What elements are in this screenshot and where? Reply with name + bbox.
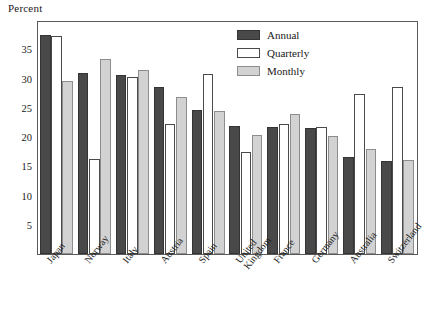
bar-spain-annual — [192, 110, 203, 254]
bar-united-kingdom-annual — [229, 126, 240, 254]
y-axis-title: Percent — [8, 2, 42, 14]
bar-italy-monthly — [138, 70, 149, 254]
legend-swatch-monthly — [237, 66, 260, 76]
bar-australia-annual — [343, 157, 354, 254]
bar-austria-quarterly — [165, 124, 176, 254]
y-axis-tick-label: 30 — [6, 73, 32, 84]
y-axis-tick-label: 15 — [6, 161, 32, 172]
bar-austria-monthly — [176, 97, 187, 254]
bars-layer — [38, 22, 417, 254]
legend-item-quarterly: Quarterly — [237, 45, 357, 61]
bar-germany-annual — [305, 128, 316, 254]
bar-germany-quarterly — [316, 127, 327, 254]
legend-swatch-quarterly — [237, 48, 260, 58]
legend-label-monthly: Monthly — [267, 65, 305, 77]
legend-label-quarterly: Quarterly — [267, 47, 309, 59]
bar-japan-quarterly — [51, 36, 62, 254]
bar-norway-annual — [78, 73, 89, 254]
bar-italy-quarterly — [127, 77, 138, 254]
bar-switzerland-annual — [381, 161, 392, 254]
bar-france-quarterly — [279, 124, 290, 254]
bar-austria-annual — [154, 87, 165, 254]
y-axis-tick-label: 25 — [6, 102, 32, 113]
bar-chart: Percent 5101520253035 JapanNorwayItalyAu… — [0, 0, 426, 325]
y-axis-tick-label: 10 — [6, 190, 32, 201]
bar-switzerland-quarterly — [392, 87, 403, 254]
y-axis-tick-label: 35 — [6, 44, 32, 55]
bar-spain-monthly — [214, 111, 225, 254]
bar-norway-monthly — [100, 59, 111, 254]
y-axis-tick-label: 5 — [6, 219, 32, 230]
bar-spain-quarterly — [203, 74, 214, 254]
legend-swatch-annual — [237, 30, 260, 40]
bar-australia-quarterly — [354, 94, 365, 254]
bar-france-annual — [267, 127, 278, 254]
bar-italy-annual — [116, 75, 127, 254]
legend-label-annual: Annual — [267, 29, 299, 41]
legend-item-annual: Annual — [237, 27, 357, 43]
chart-legend: AnnualQuarterlyMonthly — [237, 27, 357, 81]
legend-item-monthly: Monthly — [237, 63, 357, 79]
y-axis-tick-label: 20 — [6, 132, 32, 143]
bar-japan-annual — [40, 35, 51, 254]
bar-japan-monthly — [62, 81, 73, 254]
bar-france-monthly — [290, 114, 301, 254]
